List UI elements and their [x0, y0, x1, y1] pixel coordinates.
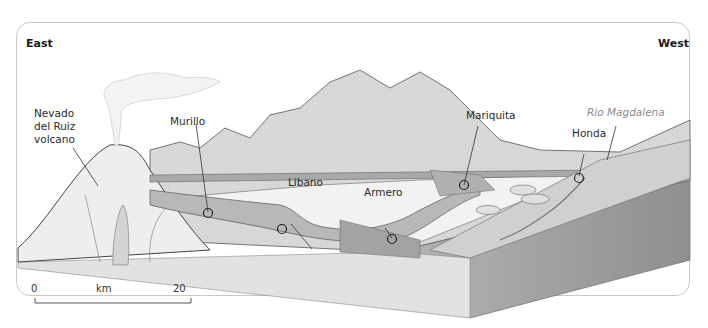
block-diagram	[0, 0, 708, 328]
scale-start: 0	[31, 283, 37, 294]
block-front	[18, 252, 470, 318]
label-volcano: Nevado del Ruiz volcano	[34, 107, 75, 146]
label-libano: Libano	[288, 176, 323, 189]
label-armero: Armero	[364, 186, 403, 199]
label-murillo: Murillo	[170, 115, 205, 128]
label-rio-magdalena: Rio Magdalena	[587, 106, 665, 119]
scale-unit: km	[96, 283, 112, 294]
label-mariquita: Mariquita	[466, 109, 516, 122]
eruption-plume	[104, 73, 220, 145]
scale-end: 20	[173, 283, 186, 294]
label-honda: Honda	[572, 127, 606, 140]
scale-bar	[35, 298, 191, 303]
direction-west: West	[658, 37, 689, 50]
direction-east: East	[26, 37, 53, 50]
